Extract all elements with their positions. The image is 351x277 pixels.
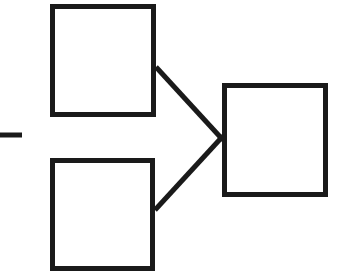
connector-top-to-right [156, 67, 223, 140]
diagram-canvas [0, 0, 351, 277]
diagram-figure [0, 0, 351, 277]
node-right[interactable] [225, 86, 326, 195]
connector-bottom-to-right [155, 136, 223, 210]
node-bottom-left[interactable] [53, 161, 153, 269]
node-top-left[interactable] [53, 7, 154, 115]
